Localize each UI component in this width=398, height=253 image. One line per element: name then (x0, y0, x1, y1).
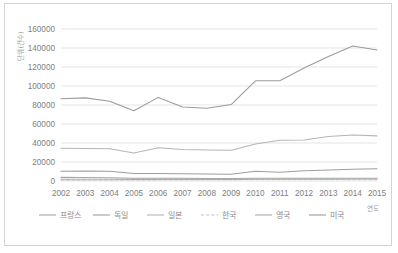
y-axis-tick-label: 20000 (32, 158, 55, 167)
y-axis-title: 단위(건수) (16, 31, 25, 60)
series-lines-group (61, 46, 377, 180)
x-axis-tick-label: 2010 (246, 189, 265, 198)
x-axis-title: 연도 (367, 205, 379, 213)
y-axis-tick-label: 160000 (28, 25, 56, 34)
legend-item-label[interactable]: 일본 (168, 211, 182, 220)
y-axis-tick-label: 140000 (28, 44, 56, 53)
chart-container: 1600001400001200001000008000060000400002… (4, 3, 392, 246)
y-axis-tick-label: 80000 (32, 101, 55, 110)
gridlines-group (61, 29, 377, 181)
legend-item-label[interactable]: 미국 (330, 211, 344, 220)
chart-plot-wrapper: 1600001400001200001000008000060000400002… (5, 4, 393, 247)
x-axis-tick-label: 2008 (198, 189, 217, 198)
y-axis-tick-label: 100000 (28, 82, 56, 91)
y-axis-tick-label: 0 (50, 177, 55, 186)
series-line (61, 177, 377, 178)
x-axis-tick-label: 2003 (76, 189, 95, 198)
x-axis-tick-label: 2004 (101, 189, 120, 198)
x-axis-tick-label: 2009 (222, 189, 241, 198)
y-axis-tick-label: 120000 (28, 63, 56, 72)
series-line (61, 169, 377, 174)
legend-item-label[interactable]: 한국 (222, 211, 236, 220)
x-axis-tick-label: 2012 (295, 189, 314, 198)
x-axis-tick-label: 2013 (319, 189, 338, 198)
x-axis-tick-label: 2015 (368, 189, 387, 198)
series-line (61, 135, 377, 153)
series-line (61, 46, 377, 111)
x-axis-tick-label: 2007 (173, 189, 192, 198)
y-axis-tick-label: 60000 (32, 120, 55, 129)
legend-item-label[interactable]: 영국 (276, 210, 290, 220)
x-axis-tick-label: 2014 (344, 189, 363, 198)
x-axis-tick-label: 2005 (125, 189, 144, 198)
line-chart: 1600001400001200001000008000060000400002… (5, 4, 393, 247)
legend-item-label[interactable]: 독일 (114, 211, 128, 220)
legend-item-label[interactable]: 프랑스 (60, 210, 81, 220)
y-axis-tick-labels: 1600001400001200001000008000060000400002… (28, 25, 56, 186)
x-axis-tick-labels: 2002200320042005200620072008200920102011… (52, 189, 387, 198)
y-axis-tick-label: 40000 (32, 139, 55, 148)
x-axis-tick-label: 2011 (271, 189, 289, 198)
x-axis-tick-label: 2006 (149, 189, 168, 198)
chart-legend: 프랑스독일일본한국영국미국 (39, 210, 344, 220)
x-axis-tick-label: 2002 (52, 189, 71, 198)
